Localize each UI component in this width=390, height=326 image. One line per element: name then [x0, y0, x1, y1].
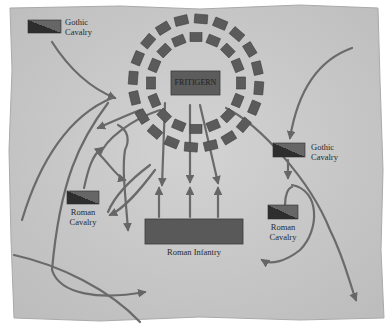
- roman-cavalry-e-label: Roman Cavalry: [263, 222, 303, 242]
- label-line: Gothic: [311, 142, 338, 152]
- label-line: Cavalry: [311, 152, 338, 162]
- roman-infantry-text: Roman Infantry: [167, 247, 221, 257]
- label-line: Roman: [63, 207, 103, 217]
- wagon: [190, 33, 202, 42]
- roman-cavalry-w-label: Roman Cavalry: [63, 207, 103, 227]
- wagon: [147, 77, 156, 89]
- fritigern-text: FRITIGERN: [175, 78, 217, 87]
- fritigern-label: FRITIGERN: [171, 78, 220, 88]
- roman-infantry-unit[interactable]: [145, 219, 243, 244]
- wagon: [254, 81, 264, 95]
- roman-cavalry-w-unit[interactable]: [67, 191, 99, 204]
- roman-infantry-label: Roman Infantry: [145, 247, 243, 257]
- battle-map: [0, 0, 390, 326]
- wagon: [184, 142, 198, 152]
- wagon: [237, 77, 246, 89]
- wagon: [128, 71, 138, 85]
- wagon: [190, 124, 202, 133]
- gothic-cavalry-e-label: Gothic Cavalry: [311, 142, 338, 162]
- parchment-background: [9, 5, 384, 321]
- gothic-cavalry-nw-label: Gothic Cavalry: [65, 17, 92, 37]
- gothic-cavalry-nw-unit[interactable]: [28, 20, 61, 33]
- label-line: Gothic: [65, 17, 92, 27]
- gothic-cavalry-e-unit[interactable]: [273, 143, 305, 157]
- label-line: Cavalry: [63, 217, 103, 227]
- label-line: Roman: [263, 222, 303, 232]
- wagon: [194, 14, 208, 24]
- label-line: Cavalry: [263, 232, 303, 242]
- label-line: Cavalry: [65, 27, 92, 37]
- roman-cavalry-e-unit[interactable]: [268, 205, 298, 219]
